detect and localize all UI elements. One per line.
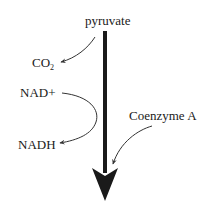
main-pathway-arrow xyxy=(92,31,118,201)
coenzyme-a-input-arrow xyxy=(113,126,152,164)
arrows-layer xyxy=(0,0,208,210)
co2-release-arrow xyxy=(61,37,95,62)
nad-reduction-arrow xyxy=(60,93,97,143)
